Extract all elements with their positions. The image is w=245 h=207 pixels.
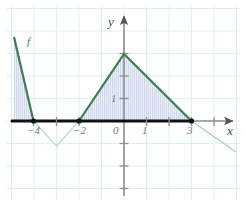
graph-canvas: [0, 0, 245, 207]
function-label-f: f: [27, 36, 30, 47]
x-axis-label: x: [227, 124, 233, 137]
x-tick-label-1: 1: [142, 125, 148, 136]
zero-marker-neg2: [76, 118, 81, 123]
y-axis-label: y: [108, 15, 114, 28]
zero-marker-3: [189, 118, 194, 123]
graph-figure: f y x −4 −2 0 1 3 1: [0, 0, 245, 207]
x-tick-label-3: 3: [187, 125, 193, 136]
x-tick-label-0: 0: [113, 125, 119, 136]
shaded-area-group: [14, 37, 192, 121]
y-tick-label-1: 1: [111, 93, 117, 104]
zero-marker-neg4: [31, 118, 36, 123]
x-tick-label-neg4: −4: [27, 125, 40, 136]
x-tick-label-neg2: −2: [73, 125, 86, 136]
